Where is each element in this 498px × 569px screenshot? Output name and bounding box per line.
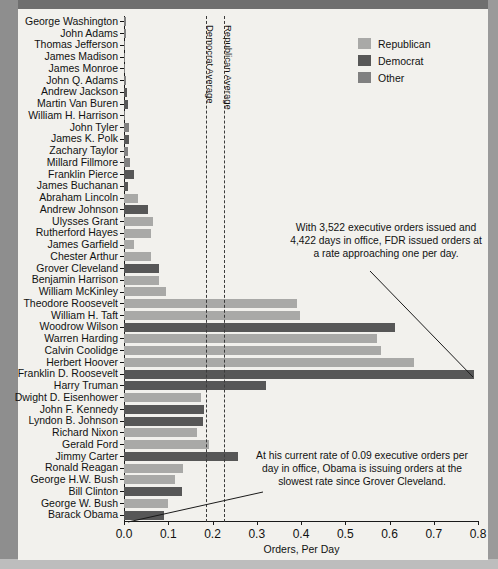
chart-canvas: George WashingtonJohn AdamsThomas Jeffer… <box>18 9 488 560</box>
window-frame-bottom <box>0 559 498 569</box>
window-frame-right <box>488 0 498 569</box>
annotation-leader-lines <box>18 9 488 560</box>
screenshot-root: George WashingtonJohn AdamsThomas Jeffer… <box>0 0 498 569</box>
window-frame-left <box>0 0 18 569</box>
window-frame-top <box>0 0 498 9</box>
